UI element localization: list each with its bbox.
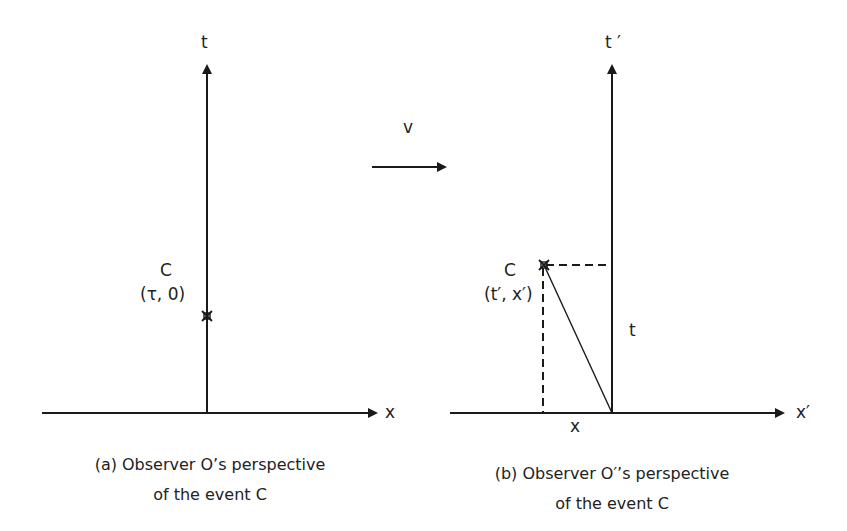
velocity-label: v — [403, 119, 413, 136]
panel-b-t-prime-axis-label: t ′ — [605, 34, 621, 51]
panel-b-event-name: C — [504, 262, 516, 279]
panel-a-x-axis-label: x — [385, 404, 395, 421]
panel-b-x-prime-axis-label: x′ — [796, 404, 810, 421]
panel-b-worldline — [544, 265, 612, 413]
panel-a-caption-line2: of the event C — [60, 480, 360, 510]
panel-b-caption-line2: of the event C — [462, 489, 762, 519]
panel-a-diagram — [42, 66, 376, 413]
panel-a-event-coords: (τ, 0) — [140, 286, 185, 303]
panel-b-diagram — [450, 66, 783, 413]
panel-b-event-marker-icon — [539, 260, 549, 270]
panel-a-caption-line1: (a) Observer O’s perspective — [60, 450, 360, 480]
panel-a-event-name: C — [160, 262, 172, 279]
panel-b-x-projection-label: x — [570, 418, 580, 435]
panel-b-event-coords: (t′, x′) — [484, 286, 533, 303]
panel-a-event-marker-icon — [202, 311, 212, 321]
panel-a-t-axis-label: t — [201, 34, 208, 51]
panel-b-t-projection-label: t — [629, 322, 636, 339]
panel-b-caption-line1: (b) Observer O′’s perspective — [462, 459, 762, 489]
